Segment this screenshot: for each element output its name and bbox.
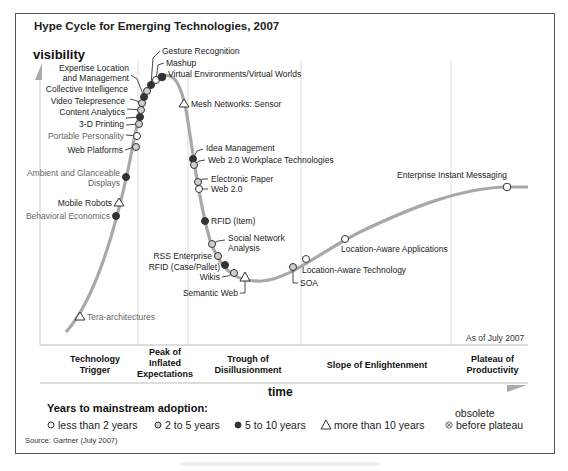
legend-triangle-icon bbox=[321, 420, 331, 429]
label-idea-management: Idea Management bbox=[206, 143, 275, 153]
marker-soa bbox=[290, 264, 297, 271]
label-virtual-worlds: Virtual Environments/Virtual Worlds bbox=[168, 69, 301, 79]
label-behavioral-economics: Behavioral Economics bbox=[26, 211, 110, 221]
phase-label: Technology bbox=[55, 354, 135, 365]
phase-slope: Slope of Enlightenment bbox=[312, 360, 442, 371]
label-tera-architectures: Tera-architectures bbox=[87, 312, 155, 322]
marker-video-telepresence bbox=[138, 107, 145, 114]
marker-rss-enterprise bbox=[215, 253, 222, 260]
marker-enterprise-im bbox=[503, 183, 511, 191]
marker-rfid-item bbox=[202, 218, 209, 225]
phase-label: Peak of bbox=[135, 347, 195, 358]
label-sna-2: Analysis bbox=[228, 243, 260, 253]
marker-rfid-case bbox=[222, 262, 229, 269]
marker-3d-printing bbox=[136, 121, 143, 128]
as-of-annotation: As of July 2007 bbox=[466, 333, 524, 343]
phase-label: Slope of Enlightenment bbox=[312, 360, 442, 371]
marker-ambient-displays bbox=[123, 174, 130, 181]
label-collective-intelligence: Collective Intelligence bbox=[46, 84, 128, 94]
marker-virtual-worlds-b bbox=[158, 73, 166, 81]
marker-web20-workplace bbox=[191, 162, 198, 169]
label-ambient-1: Ambient and Glanceable bbox=[27, 168, 120, 178]
marker-web20 bbox=[196, 186, 203, 193]
y-axis-label: visibility bbox=[33, 47, 85, 62]
marker-portable-personality bbox=[134, 133, 141, 140]
chart-title: Hype Cycle for Emerging Technologies, 20… bbox=[34, 20, 279, 32]
label-semantic-web: Semantic Web bbox=[183, 288, 238, 298]
marker-web-platforms bbox=[133, 144, 140, 151]
phase-label: Disillusionment bbox=[198, 365, 298, 376]
y-axis-arrow-icon bbox=[35, 63, 42, 80]
label-content-analytics: Content Analytics bbox=[59, 107, 125, 117]
label-3d-printing: 3-D Printing bbox=[79, 119, 124, 129]
phase-label: Plateau of bbox=[455, 354, 530, 365]
label-mashup: Mashup bbox=[166, 58, 197, 68]
marker-wikis bbox=[231, 270, 238, 277]
label-rfid-item: RFID (Item) bbox=[211, 216, 256, 226]
marker-content-analytics bbox=[137, 114, 144, 121]
legend-5to10: 5 to 10 years bbox=[245, 419, 306, 431]
blurred-caption bbox=[180, 462, 380, 466]
phase-plateau: Plateau of Productivity bbox=[455, 354, 530, 376]
label-ambient-2: Displays bbox=[88, 178, 120, 188]
label-portable-personality: Portable Personality bbox=[48, 131, 125, 141]
label-web20: Web 2.0 bbox=[211, 184, 243, 194]
label-expertise-2: and Management bbox=[63, 73, 130, 83]
label-electronic-paper: Electronic Paper bbox=[211, 174, 274, 184]
source-note: Source: Gartner (July 2007) bbox=[25, 436, 118, 445]
phase-label: Trigger bbox=[55, 365, 135, 376]
legend-crossed-circle-icon bbox=[446, 422, 452, 428]
legend-2to5: 2 to 5 years bbox=[165, 419, 220, 431]
phase-label: Trough of bbox=[198, 354, 298, 365]
label-wikis: Wikis bbox=[200, 272, 220, 282]
phase-peak: Peak of Inflated Expectations bbox=[135, 347, 195, 380]
legend-dark-circle-icon bbox=[235, 422, 241, 428]
phase-label: Expectations bbox=[135, 369, 195, 380]
marker-behavioral-economics bbox=[113, 213, 120, 220]
label-expertise-1: Expertise Location bbox=[59, 63, 129, 73]
legend-open-circle-icon bbox=[48, 422, 54, 428]
label-location-aware-tech: Location-Aware Technology bbox=[302, 265, 407, 275]
legend-gt10: more than 10 years bbox=[334, 419, 424, 431]
hype-cycle-chart: Gesture Recognition Mashup Virtual Envir… bbox=[0, 0, 568, 471]
label-location-aware-apps: Location-Aware Applications bbox=[341, 244, 448, 254]
marker-semantic-web bbox=[240, 272, 250, 281]
legend-obsolete-top: obsolete bbox=[455, 407, 495, 419]
legend-lt2: less than 2 years bbox=[58, 419, 137, 431]
legend-gray-circle-icon bbox=[155, 422, 161, 428]
label-enterprise-im: Enterprise Instant Messaging bbox=[397, 170, 507, 180]
label-gesture-recognition: Gesture Recognition bbox=[162, 46, 240, 56]
phase-label: Inflated bbox=[135, 358, 195, 369]
label-web-platforms: Web Platforms bbox=[67, 145, 123, 155]
marker-location-aware-apps bbox=[342, 236, 349, 243]
label-video-telepresence: Video Telepresence bbox=[51, 96, 126, 106]
hype-curve bbox=[66, 75, 528, 332]
x-axis-arrow-icon bbox=[507, 385, 527, 392]
label-rfid-case: RFID (Case/Pallet) bbox=[149, 262, 220, 272]
marker-social-network-analysis bbox=[209, 241, 216, 248]
phase-trough: Trough of Disillusionment bbox=[198, 354, 298, 376]
legend-obsolete: before plateau bbox=[456, 419, 523, 431]
label-mesh-networks: Mesh Networks: Sensor bbox=[191, 99, 281, 109]
label-web20-workplace: Web 2.0 Workplace Technologies bbox=[208, 155, 334, 165]
x-axis-label: time bbox=[268, 385, 293, 399]
marker-electronic-paper bbox=[195, 179, 202, 186]
phase-technology-trigger: Technology Trigger bbox=[55, 354, 135, 376]
phase-label: Productivity bbox=[455, 365, 530, 376]
marker-location-aware-tech bbox=[303, 256, 310, 263]
label-sna-1: Social Network bbox=[228, 233, 285, 243]
label-mobile-robots: Mobile Robots bbox=[58, 198, 112, 208]
label-soa: SOA bbox=[300, 278, 318, 288]
label-rss-enterprise: RSS Enterprise bbox=[153, 251, 212, 261]
legend-title: Years to mainstream adoption: bbox=[47, 402, 208, 414]
